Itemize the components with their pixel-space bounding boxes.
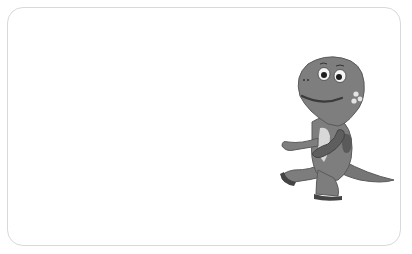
dinosaur-illustration <box>272 52 400 204</box>
